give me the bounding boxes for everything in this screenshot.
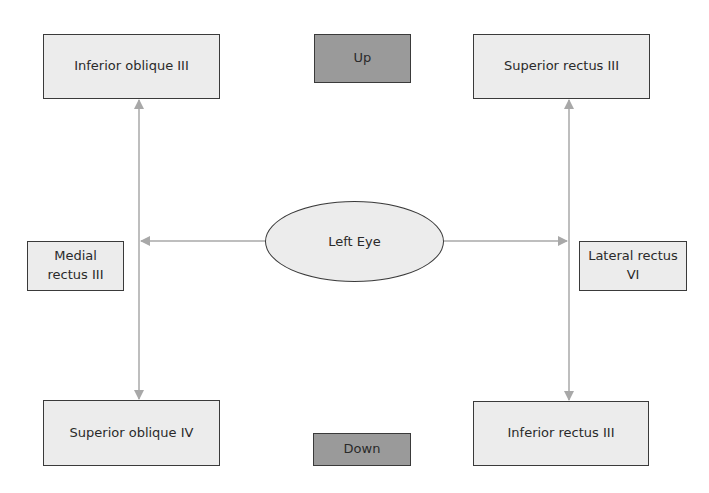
up-direction-box: Up (314, 34, 411, 83)
left-eye-ellipse: Left Eye (265, 201, 444, 282)
medial-rectus-box: Medial rectus III (27, 241, 124, 291)
up-label: Up (354, 49, 372, 68)
medial-rectus-label: Medial rectus III (44, 247, 108, 285)
inferior-rectus-box: Inferior rectus III (473, 401, 649, 466)
inferior-rectus-label: Inferior rectus III (508, 424, 615, 443)
superior-oblique-box: Superior oblique IV (43, 400, 220, 466)
inferior-oblique-label: Inferior oblique III (74, 57, 189, 76)
superior-rectus-label: Superior rectus III (504, 57, 619, 76)
left-eye-label: Left Eye (328, 234, 381, 249)
superior-rectus-box: Superior rectus III (473, 34, 650, 99)
superior-oblique-label: Superior oblique IV (70, 424, 194, 443)
lateral-rectus-label: Lateral rectus VI (583, 247, 683, 285)
lateral-rectus-box: Lateral rectus VI (579, 241, 687, 291)
down-direction-box: Down (313, 433, 411, 466)
down-label: Down (344, 440, 381, 459)
inferior-oblique-box: Inferior oblique III (43, 34, 220, 99)
